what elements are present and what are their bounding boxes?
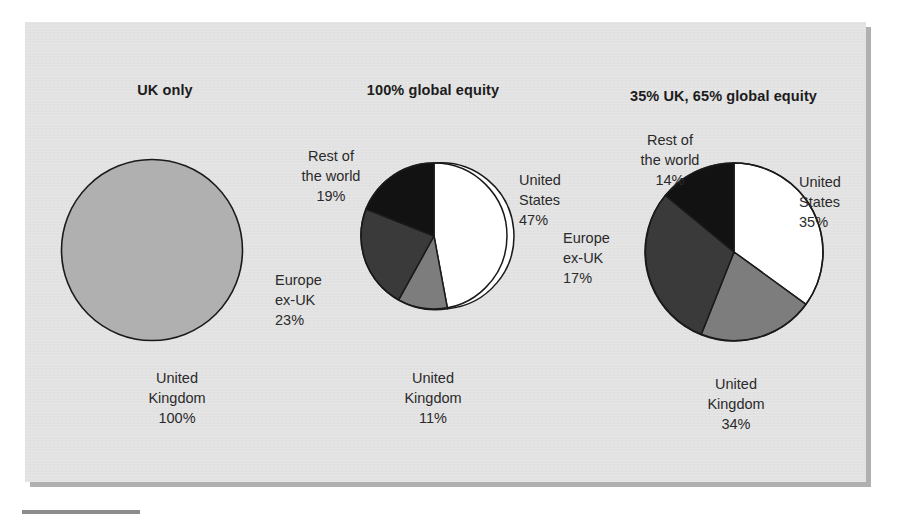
pie-slice-united-kingdom [62,160,243,341]
pie-label-name-line-2: the world [615,150,725,170]
pie-label-name-line-2: the world [279,166,383,186]
pie-chart-uk-only: UK only United Kingdom 100% [25,22,305,482]
pie-label-name-line-2: ex-UK [275,290,379,310]
pie-label-name-line-1: Europe [563,228,663,248]
pie-chart-100-global-equity: 100% global equity Rest of the world 19%… [283,22,583,482]
pie-label-value: 35% [799,212,900,232]
pie-label-value: 14% [615,170,725,190]
pie-label-name-line-1: Rest of [279,146,383,166]
pie-label-name-line-2: Kingdom [103,388,251,408]
pie-label-name-line-1: United [799,172,900,192]
chart-title-100-global-equity: 100% global equity [283,82,583,98]
pie-label-name-line-1: United [681,374,791,394]
pie-label-value: 34% [681,414,791,434]
pie-label-name-line-2: ex-UK [563,248,663,268]
pie-chart-35-uk-65-global-equity: 35% UK, 65% global equity Rest of the wo… [581,22,866,482]
pie-label-value: 100% [103,408,251,428]
pie-graphic-uk-only [60,158,244,342]
pie-label-name-line-1: Europe [275,270,379,290]
footer-rule [22,510,140,514]
pie-label-united-kingdom: United Kingdom 100% [103,368,251,428]
pie-label-rest-of-the-world: Rest of the world 19% [279,146,383,206]
pie-label-rest-of-the-world: Rest of the world 14% [615,130,725,190]
pie-label-name-line-1: Rest of [615,130,725,150]
pie-label-europe-ex-uk: Europe ex-UK 17% [563,228,663,288]
pie-label-united-kingdom: United Kingdom 34% [681,374,791,434]
pie-label-value: 19% [279,186,383,206]
pie-label-name-line-1: United [103,368,251,388]
pie-label-united-kingdom: United Kingdom 11% [381,368,485,428]
chart-title-uk-only: UK only [25,82,305,98]
pie-slice-united-states [434,163,514,309]
pie-label-value: 11% [381,408,485,428]
chart-title-35-uk-65-global-equity: 35% UK, 65% global equity [581,88,866,104]
pie-label-name-line-2: Kingdom [381,388,485,408]
pie-label-value: 17% [563,268,663,288]
pie-label-name-line-2: Kingdom [681,394,791,414]
figure-panel: UK only United Kingdom 100% 100% global … [25,22,866,482]
pie-label-name-line-2: States [799,192,900,212]
pie-label-united-states: United States 35% [799,172,900,232]
pie-label-europe-ex-uk: Europe ex-UK 23% [275,270,379,330]
pie-label-value: 23% [275,310,379,330]
pie-label-name-line-1: United [381,368,485,388]
